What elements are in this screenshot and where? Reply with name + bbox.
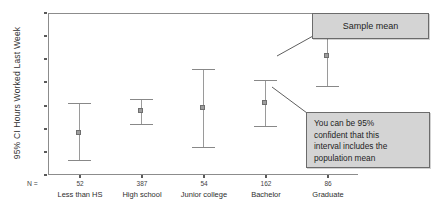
x-tick-n-value: 54 xyxy=(181,180,227,187)
n-row-label: N = xyxy=(27,180,38,187)
x-tick-n-value: 86 xyxy=(305,180,351,187)
error-bar-upper-cap xyxy=(130,99,153,100)
callout-sample-mean-text: Sample mean xyxy=(343,21,399,31)
callout-confidence-line-1: You can be 95% xyxy=(314,118,422,130)
callout-confidence-line-4: population mean xyxy=(314,153,422,165)
callout-sample-mean[interactable]: Sample mean xyxy=(312,13,429,39)
y-tick-mark xyxy=(44,35,47,37)
x-tick-mark xyxy=(327,175,329,178)
y-tick-mark xyxy=(44,151,47,153)
x-tick-mark xyxy=(203,175,205,178)
y-tick-mark xyxy=(44,105,47,107)
callout-confidence[interactable]: You can be 95% confident that this inter… xyxy=(306,112,430,168)
y-axis-title: 95% CI Hours Worked Last Week xyxy=(12,8,22,178)
x-tick-mark xyxy=(141,175,143,178)
error-bar-lower-cap xyxy=(254,126,277,127)
mean-marker xyxy=(76,130,81,135)
mean-marker xyxy=(262,100,267,105)
mean-marker xyxy=(138,108,143,113)
y-tick-mark xyxy=(44,12,47,14)
error-bar-upper-cap xyxy=(68,103,91,104)
x-tick-label: Graduate xyxy=(291,190,365,199)
error-bar-lower-cap xyxy=(130,124,153,125)
callout-confidence-line-3: interval includes the xyxy=(314,141,422,153)
y-tick-mark xyxy=(44,81,47,83)
error-bar-upper-cap xyxy=(192,69,215,70)
error-bar-upper-cap xyxy=(254,80,277,81)
x-tick-mark xyxy=(265,175,267,178)
y-tick-mark xyxy=(44,174,47,176)
error-bar-lower-cap xyxy=(192,147,215,148)
error-bar-lower-cap xyxy=(316,86,339,87)
y-tick-mark xyxy=(44,128,47,130)
x-tick-n-value: 162 xyxy=(243,180,289,187)
mean-marker xyxy=(324,53,329,58)
x-tick-mark xyxy=(79,175,81,178)
x-tick-n-value: 387 xyxy=(119,180,165,187)
x-tick-n-value: 52 xyxy=(57,180,103,187)
error-bar-lower-cap xyxy=(68,160,91,161)
mean-marker xyxy=(200,105,205,110)
confidence-interval-chart: 95% CI Hours Worked Last Week 4042444648… xyxy=(0,0,433,212)
y-tick-mark xyxy=(44,58,47,60)
callout-confidence-line-2: confident that this xyxy=(314,130,422,142)
